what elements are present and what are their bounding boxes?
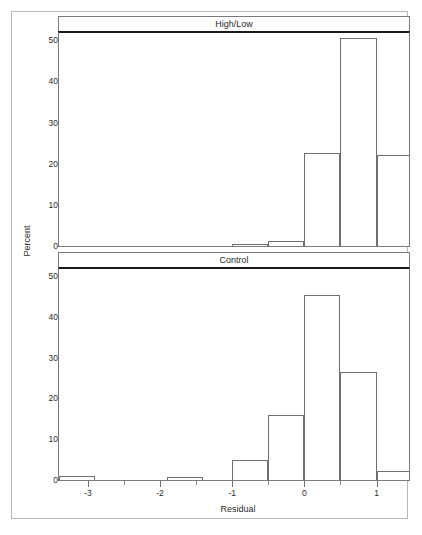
x-axis: -3-2-101 [58,481,410,503]
panel-header-control: Control [58,252,410,267]
histogram-bar [268,415,304,480]
y-axis-tick-label: 20 [32,393,58,403]
y-axis-bottom-panel: 01020304050 [26,267,58,481]
plot-area-high-low [58,31,410,247]
panel-control: Control [58,252,410,481]
x-axis-tick-mark [304,481,305,487]
histogram-bar [304,295,340,481]
panel-title-control: Control [59,254,409,267]
x-axis-title: Residual [62,504,414,514]
histogram-bar [268,241,304,246]
x-axis-minor-tick [196,481,197,485]
panel-title-high-low: High/Low [59,18,409,31]
y-axis-tick-label: 10 [32,200,58,210]
histogram-bar [167,477,203,480]
x-axis-tick-label: 1 [362,488,392,498]
plot-area-control [58,267,410,481]
histogram-figure: Percent 01020304050 01020304050 High/Low… [0,0,422,535]
histogram-bar [340,38,376,246]
x-axis-tick-label: -2 [145,488,175,498]
x-axis-tick-mark [160,481,161,487]
y-axis-tick-label: 50 [32,35,58,45]
histogram-bar [232,460,268,480]
y-axis-tick-label: 30 [32,118,58,128]
x-axis-tick-label: -1 [217,488,247,498]
y-axis-tick-label: 40 [32,312,58,322]
y-axis-tick-label: 10 [32,434,58,444]
x-axis-minor-tick [124,481,125,485]
panel-header-high-low: High/Low [58,16,410,31]
histogram-bar [377,471,410,480]
y-axis-tick-label: 50 [32,271,58,281]
histogram-bar [304,153,340,246]
x-axis-minor-tick [340,481,341,485]
y-axis-tick-label: 0 [32,475,58,485]
y-axis-tick-label: 0 [32,241,58,251]
y-axis-top-panel: 01020304050 [26,31,58,247]
x-axis-minor-tick [268,481,269,485]
x-axis-tick-mark [88,481,89,487]
x-axis-tick-mark [377,481,378,487]
panel-high-low: High/Low [58,16,410,247]
histogram-bar [340,372,376,480]
y-axis-tick-label: 30 [32,353,58,363]
histogram-bar [232,244,268,246]
histogram-bar [59,476,95,480]
y-axis-tick-label: 40 [32,76,58,86]
x-axis-tick-label: -3 [73,488,103,498]
histogram-bar [377,155,410,246]
y-axis-tick-label: 20 [32,159,58,169]
x-axis-tick-mark [232,481,233,487]
x-axis-tick-label: 0 [289,488,319,498]
